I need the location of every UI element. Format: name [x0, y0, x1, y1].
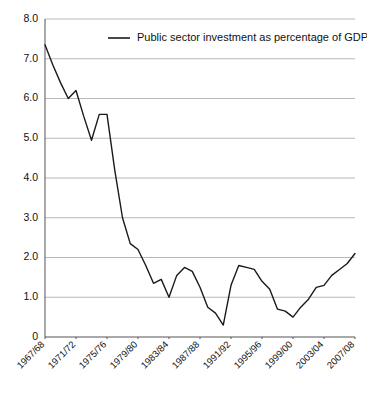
- x-axis-tick-label: 1971/72: [45, 339, 77, 371]
- line-chart: 01.02.03.04.05.06.07.08.0 1967/681971/72…: [0, 0, 367, 409]
- y-axis-tick-label: 2.0: [23, 250, 38, 262]
- y-axis-tick-label: 5.0: [23, 131, 38, 143]
- y-axis-tick-label: 3.0: [23, 211, 38, 223]
- y-axis-tick-label: 8.0: [23, 12, 38, 24]
- legend-label: Public sector investment as percentage o…: [137, 31, 367, 43]
- x-axis-tick-label: 1983/84: [138, 339, 170, 371]
- x-axis-tick-label: 2007/08: [324, 339, 356, 371]
- y-axis-tick-label: 4.0: [23, 171, 38, 183]
- x-axis-tick-label: 1995/96: [231, 339, 263, 371]
- y-axis-tick-label: 7.0: [23, 52, 38, 64]
- x-axis-tick-label: 1991/92: [200, 339, 232, 371]
- x-axis-tick-labels: 1967/681971/721975/761979/801983/841987/…: [14, 337, 356, 371]
- x-axis-tick-label: 1967/68: [14, 339, 46, 371]
- y-axis-tick-label: 1.0: [23, 290, 38, 302]
- y-axis-tick-label: 6.0: [23, 91, 38, 103]
- chart-container: 01.02.03.04.05.06.07.08.0 1967/681971/72…: [0, 0, 367, 409]
- x-axis-tick-label: 1975/76: [76, 339, 108, 371]
- legend: Public sector investment as percentage o…: [108, 31, 367, 43]
- x-axis-tick-label: 1999/00: [262, 339, 294, 371]
- x-axis-tick-label: 2003/04: [293, 339, 325, 371]
- x-axis-tick-label: 1987/88: [169, 339, 201, 371]
- y-axis-tick-labels: 01.02.03.04.05.06.07.08.0: [23, 12, 38, 342]
- x-axis-tick-label: 1979/80: [107, 339, 139, 371]
